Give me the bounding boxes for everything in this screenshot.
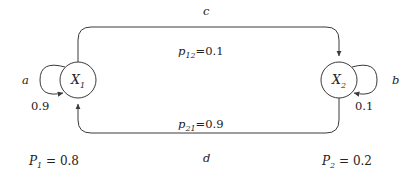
state-probability-p1: P1 = 0.8 — [29, 155, 79, 170]
self-loop-x2 — [352, 65, 377, 94]
p2-value: 0.2 — [353, 154, 372, 168]
p21-subscript: 21 — [185, 124, 195, 133]
p12-equals: = — [196, 44, 206, 58]
transition-label-p21: p21=0.9 — [178, 119, 224, 133]
edge-letter-b: b — [392, 75, 399, 87]
edge-letter-d: d — [203, 153, 210, 165]
transition-label-p12: p12=0.1 — [178, 46, 224, 60]
node-x1-label: X1 — [62, 74, 94, 90]
node-x1-symbol: X — [71, 72, 80, 87]
self-loop-x2-weight: 0.1 — [355, 101, 373, 113]
p2-subscript: 2 — [330, 161, 335, 170]
node-x2-label: X2 — [323, 74, 355, 90]
p1-subscript: 1 — [37, 161, 42, 170]
p21-equals: = — [196, 117, 206, 131]
p21-value: 0.9 — [205, 117, 223, 131]
p1-value: 0.8 — [60, 154, 79, 168]
p12-subscript: 12 — [185, 51, 195, 60]
edge-letter-a: a — [22, 75, 29, 87]
p1-equals: = — [46, 154, 56, 168]
p1-symbol: P — [29, 154, 37, 168]
edge-letter-c: c — [203, 6, 209, 18]
state-diagram: X1 X2 a b c d 0.9 0.1 p12=0.1 p21=0.9 P1… — [0, 0, 417, 179]
p2-symbol: P — [322, 154, 330, 168]
p12-value: 0.1 — [205, 44, 223, 58]
node-x2-subscript: 2 — [341, 81, 346, 90]
p2-equals: = — [339, 154, 349, 168]
node-x1-subscript: 1 — [80, 81, 85, 90]
state-probability-p2: P2 = 0.2 — [322, 155, 372, 170]
self-loop-x1-weight: 0.9 — [31, 101, 49, 113]
node-x2-symbol: X — [332, 72, 341, 87]
